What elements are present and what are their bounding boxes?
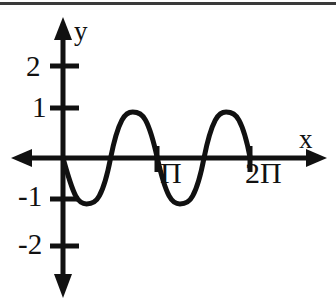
- graph-figure: y x 2 1 -1 -2 Π 2Π: [0, 0, 336, 304]
- x-tick-label-2pi: 2Π: [245, 158, 282, 188]
- y-axis-down-arrow-icon: [54, 274, 72, 298]
- y-tick-label-minus-1: -1: [18, 182, 42, 211]
- x-axis-label: x: [299, 126, 313, 153]
- y-tick-label-1: 1: [32, 93, 47, 122]
- y-axis-label: y: [74, 18, 88, 45]
- y-axis-up-arrow-icon: [54, 17, 72, 40]
- y-tick-label-2: 2: [26, 52, 41, 81]
- y-tick-label-minus-2: -2: [18, 230, 42, 259]
- coordinate-plot: [0, 0, 336, 304]
- x-tick-label-pi: Π: [160, 158, 182, 188]
- x-axis-left-arrow-icon: [11, 149, 32, 167]
